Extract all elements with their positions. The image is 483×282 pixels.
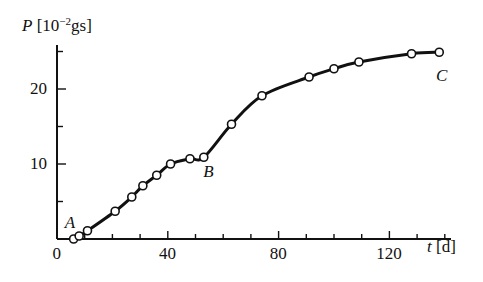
data-point-marker [128,193,136,201]
x-axis-var: t [427,237,432,256]
y-tick-label: 20 [30,80,47,97]
data-point-marker [83,227,91,235]
x-axis-label: t [d] [427,238,456,255]
data-point-marker [200,153,208,161]
data-point-marker [153,171,161,179]
data-point-marker [186,155,194,163]
data-point-marker [305,73,313,81]
x-axis-unit: [d] [436,237,456,256]
annotation-c: C [436,67,447,84]
data-point-marker [167,160,175,168]
data-point-marker [75,232,83,240]
x-tick-label: 80 [270,245,287,262]
data-point-marker [435,48,443,56]
y-axis-unit-post: gs] [71,16,92,35]
y-axis-var: P [22,16,32,35]
y-axis-label: P [10−2gs] [22,16,92,34]
series-line [74,52,440,239]
x-tick-label: 120 [376,245,402,262]
x-tick-label: 40 [159,245,176,262]
data-point-marker [228,120,236,128]
data-point-marker [408,50,416,58]
data-point-marker [330,65,338,73]
data-point-marker [139,182,147,190]
annotation-b: B [203,163,213,180]
chart-plot [0,0,483,282]
data-markers [70,48,444,243]
y-axis-unit-exp: −2 [59,15,71,27]
y-axis-unit-pre: [10 [37,16,60,35]
data-curve [74,52,440,239]
data-point-marker [258,92,266,100]
data-point-marker [355,58,363,66]
x-tick-label: 0 [53,245,62,262]
annotation-a: A [65,214,75,231]
y-tick-label: 10 [30,155,47,172]
data-point-marker [111,207,119,215]
